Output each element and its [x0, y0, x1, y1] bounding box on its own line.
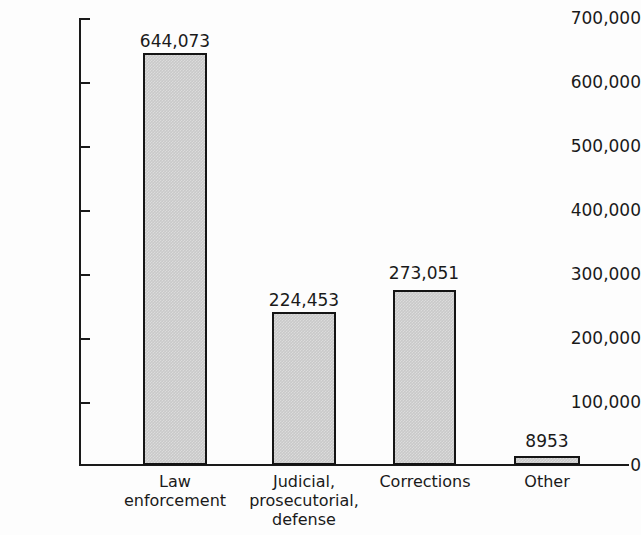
- bar-category-judicial: Judicial, prosecutorial, defense: [228, 472, 380, 529]
- bar-judicial: [272, 312, 336, 465]
- bar-category-line: prosecutorial,: [228, 491, 380, 510]
- bar-chart: 700,000 600,000 500,000 400,000 300,000 …: [0, 0, 641, 535]
- bar-category-line: Law: [105, 472, 245, 491]
- bar-value-law-enforcement: 644,073: [115, 33, 235, 50]
- bar-value-judicial: 224,453: [244, 292, 364, 309]
- bar-category-corrections: Corrections: [360, 472, 490, 491]
- y-tick-label-300000: 300,000: [567, 266, 641, 283]
- bar-category-other: Other: [482, 472, 612, 491]
- y-tick-label-200000: 200,000: [567, 330, 641, 347]
- bar-corrections: [393, 290, 456, 465]
- y-tick-label-400000: 400,000: [567, 202, 641, 219]
- y-tick-label-100000: 100,000: [567, 394, 641, 411]
- bar-category-line: Other: [482, 472, 612, 491]
- y-tick-label-700000: 700,000: [567, 10, 641, 27]
- bar-value-corrections: 273,051: [364, 265, 484, 282]
- bar-category-line: Corrections: [360, 472, 490, 491]
- bar-other: [514, 456, 580, 465]
- bar-category-line: enforcement: [105, 491, 245, 510]
- bar-category-line: Judicial,: [228, 472, 380, 491]
- y-axis-line: [79, 18, 81, 466]
- bar-category-law-enforcement: Law enforcement: [105, 472, 245, 510]
- bar-category-line: defense: [228, 510, 380, 529]
- bar-law-enforcement: [143, 53, 207, 465]
- bar-value-other: 8953: [487, 433, 607, 450]
- y-tick-label-500000: 500,000: [567, 138, 641, 155]
- y-tick-label-600000: 600,000: [567, 74, 641, 91]
